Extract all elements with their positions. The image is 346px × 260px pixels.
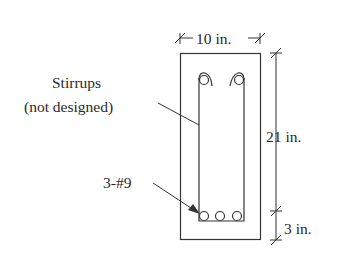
stirrup [199, 73, 244, 221]
cover-label: 3 in. [284, 220, 312, 237]
beam-section-diagram: 10 in. 21 in. 3 in. Stirrups (not design… [0, 0, 346, 260]
top-bars [200, 76, 244, 85]
bars-label: 3-#9 [103, 174, 132, 191]
depth-label: 21 in. [266, 128, 301, 145]
width-label: 10 in. [196, 30, 231, 47]
stirrups-label-line1: Stirrups [52, 74, 101, 91]
depth-dimension [270, 48, 282, 245]
arrowhead-icon [188, 204, 200, 214]
stirrups-leader-line [158, 103, 199, 125]
stirrups-label-line2: (not designed) [24, 98, 113, 116]
bars-leader-line [153, 183, 194, 210]
bottom-bars-3-no9 [200, 212, 242, 221]
